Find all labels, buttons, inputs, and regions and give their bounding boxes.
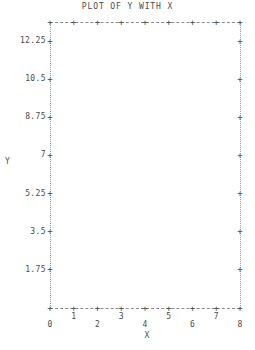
y-tick-mark-right-0: + bbox=[237, 265, 243, 274]
character-plot: PLOT OF Y WITH X ++1.75++3.5++5.25++7++8… bbox=[0, 0, 255, 350]
chart-title: PLOT OF Y WITH X bbox=[0, 2, 255, 11]
y-tick-mark-left-2: + bbox=[47, 189, 53, 198]
x-tick-mark-top-8: + bbox=[237, 18, 243, 27]
y-tick-mark-left-1: + bbox=[47, 227, 53, 236]
y-tick-label-5: 10.5 bbox=[8, 75, 46, 83]
y-tick-mark-left-5: + bbox=[47, 75, 53, 84]
y-tick-mark-left-6: + bbox=[47, 37, 53, 46]
x-tick-mark-bottom-8: + bbox=[237, 304, 243, 313]
plot-area bbox=[51, 23, 240, 308]
x-tick-mark-top-7: + bbox=[213, 18, 219, 27]
x-tick-mark-top-2: + bbox=[95, 18, 101, 27]
x-tick-label-7: 7 bbox=[209, 313, 223, 321]
y-tick-mark-left-4: + bbox=[47, 113, 53, 122]
y-tick-mark-right-2: + bbox=[237, 189, 243, 198]
x-tick-mark-bottom-2: + bbox=[95, 304, 101, 313]
x-tick-mark-top-6: + bbox=[190, 18, 196, 27]
y-tick-label-4: 8.75 bbox=[8, 113, 46, 121]
y-tick-mark-right-6: + bbox=[237, 37, 243, 46]
y-tick-mark-left-0: + bbox=[47, 265, 53, 274]
x-tick-mark-top-0: + bbox=[47, 18, 53, 27]
y-tick-label-1: 3.5 bbox=[8, 228, 46, 236]
y-tick-label-6: 12.25 bbox=[8, 37, 46, 45]
x-tick-mark-bottom-0: + bbox=[47, 304, 53, 313]
y-tick-mark-right-1: + bbox=[237, 227, 243, 236]
x-tick-label-5: 5 bbox=[162, 313, 176, 321]
x-tick-label-8: 8 bbox=[233, 321, 247, 329]
x-tick-label-3: 3 bbox=[114, 313, 128, 321]
y-tick-label-2: 5.25 bbox=[8, 190, 46, 198]
y-tick-label-3: 7 bbox=[8, 151, 46, 159]
x-tick-label-2: 2 bbox=[91, 321, 105, 329]
y-tick-mark-right-4: + bbox=[237, 113, 243, 122]
x-tick-mark-top-3: + bbox=[118, 18, 124, 27]
x-tick-mark-top-5: + bbox=[166, 18, 172, 27]
x-tick-mark-top-4: + bbox=[142, 18, 148, 27]
x-tick-mark-bottom-4: + bbox=[142, 304, 148, 313]
x-tick-label-6: 6 bbox=[186, 321, 200, 329]
x-tick-label-4: 4 bbox=[138, 321, 152, 329]
x-tick-label-0: 0 bbox=[43, 321, 57, 329]
x-tick-mark-bottom-6: + bbox=[190, 304, 196, 313]
y-axis-title: Y bbox=[5, 158, 10, 166]
y-tick-mark-right-5: + bbox=[237, 75, 243, 84]
y-tick-mark-right-3: + bbox=[237, 151, 243, 160]
x-tick-mark-top-1: + bbox=[71, 18, 77, 27]
x-axis-title: X bbox=[140, 332, 154, 340]
y-tick-mark-left-3: + bbox=[47, 151, 53, 160]
x-tick-label-1: 1 bbox=[67, 313, 81, 321]
y-tick-label-0: 1.75 bbox=[8, 266, 46, 274]
